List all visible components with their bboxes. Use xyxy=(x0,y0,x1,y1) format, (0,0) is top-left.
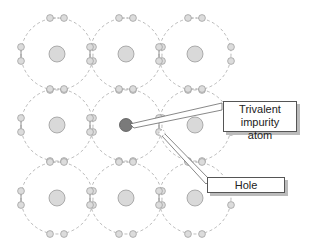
electron xyxy=(156,202,163,209)
electron xyxy=(18,202,25,209)
electron xyxy=(18,44,25,51)
electron xyxy=(130,15,137,22)
atom-nucleus xyxy=(187,190,203,206)
electron xyxy=(116,86,123,93)
electron xyxy=(130,159,137,166)
atom-nucleus xyxy=(118,190,134,206)
electron xyxy=(18,58,25,65)
electron xyxy=(87,44,94,51)
electron xyxy=(61,86,68,93)
electron xyxy=(47,15,54,22)
electron xyxy=(185,15,192,22)
atom-nucleus xyxy=(118,46,134,62)
atom-nucleus xyxy=(187,117,203,133)
electron xyxy=(185,86,192,93)
electron xyxy=(87,129,94,136)
electron xyxy=(228,58,235,65)
bonds xyxy=(21,18,202,205)
electron xyxy=(61,15,68,22)
hole-marker xyxy=(159,130,165,136)
electron xyxy=(116,159,123,166)
electron xyxy=(116,231,123,238)
impurity-callout: Trivalent impurity atom xyxy=(223,101,297,132)
impurity-label-line1: Trivalent impurity xyxy=(224,103,296,129)
electron xyxy=(156,188,163,195)
atom-nucleus xyxy=(49,117,65,133)
electron xyxy=(199,231,206,238)
electron xyxy=(116,15,123,22)
atom-nucleus xyxy=(49,190,65,206)
electron xyxy=(87,188,94,195)
electron xyxy=(130,86,137,93)
electron xyxy=(18,188,25,195)
impurity-leader xyxy=(130,103,222,128)
electron xyxy=(87,202,94,209)
electron xyxy=(47,231,54,238)
atom-nucleus xyxy=(49,46,65,62)
electron xyxy=(130,231,137,238)
electron xyxy=(228,44,235,51)
electron xyxy=(18,115,25,122)
electron xyxy=(61,231,68,238)
nuclei xyxy=(49,46,203,206)
hole-label: Hole xyxy=(235,179,258,191)
electron xyxy=(87,115,94,122)
electron xyxy=(228,202,235,209)
electron xyxy=(199,159,206,166)
electron xyxy=(199,86,206,93)
electron xyxy=(156,58,163,65)
electron xyxy=(47,86,54,93)
electron xyxy=(18,129,25,136)
impurity-label-line2: atom xyxy=(224,129,296,142)
electron xyxy=(199,15,206,22)
hole-callout: Hole xyxy=(207,177,285,193)
electron xyxy=(61,159,68,166)
electron xyxy=(185,231,192,238)
electron xyxy=(87,58,94,65)
atom-nucleus xyxy=(187,46,203,62)
electron xyxy=(47,159,54,166)
electron xyxy=(156,44,163,51)
